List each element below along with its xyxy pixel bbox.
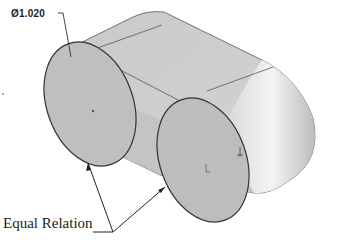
callout-leader-right bbox=[113, 187, 165, 232]
equal-relation-label: Equal Relation bbox=[3, 215, 93, 232]
cad-model-view bbox=[0, 0, 337, 249]
diameter-dimension: Ø1.020 bbox=[11, 8, 45, 19]
stray-point bbox=[2, 93, 4, 95]
left-center-point bbox=[92, 110, 94, 112]
